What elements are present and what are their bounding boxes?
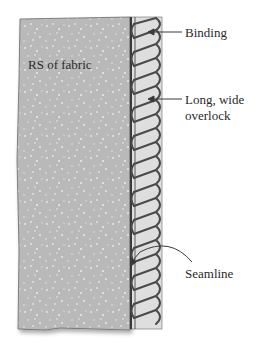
overlock-callout-label-line2: overlock: [185, 108, 230, 123]
overlock-callout-label-line1: Long, wide: [185, 92, 244, 107]
binding-callout-label: Binding: [185, 25, 227, 40]
seamline-callout-label: Seamline: [185, 266, 233, 281]
illustration: [0, 0, 260, 353]
fabric-label: RS of fabric: [28, 57, 92, 72]
overlock-binding-diagram: RS of fabric Binding Long, wide overlock…: [0, 0, 260, 353]
